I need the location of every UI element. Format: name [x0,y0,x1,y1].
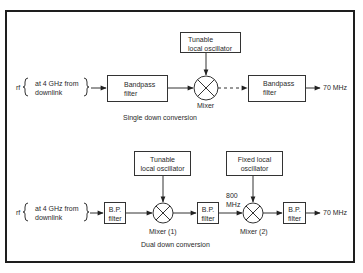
tunable-local-oscillator-box: Tunable local oscillator [180,32,241,53]
left-brace-top [23,78,28,96]
caption-dual-down-conversion: Dual down conversion [141,241,210,250]
right-brace-top [84,78,89,96]
left-brace-bottom [23,203,28,221]
output-label-bottom: 70 MHz [323,209,347,218]
bp-filter-box-3: B.P. filter [283,202,306,224]
right-brace-bottom [84,203,89,221]
bandpass-filter-box-2: Bandpass filter [248,75,306,102]
caption-single-down-conversion: Single down conversion [123,114,197,123]
mixer-label: Mixer [197,102,214,111]
fixed-local-oscillator-box: Fixed local oscillator [226,151,283,176]
bp-filter-box-2: B.P. filter [197,202,219,224]
bandpass-filter-box-1: Bandpass filter [107,75,168,102]
bp-filter-box-1: B.P. filter [104,202,126,224]
input-label-bottom: at 4 GHz from downlink [35,205,79,222]
intermediate-frequency-label: 800 MHz [226,192,240,209]
output-label-top: 70 MHz [323,84,347,93]
input-label-top: at 4 GHz from downlink [35,80,79,97]
mixer-1-label: Mixer (1) [149,228,177,237]
tunable-local-oscillator-box-dual: Tunable local oscillator [134,151,191,176]
rf-label-top: rf [16,84,20,93]
mixer-2-label: Mixer (2) [240,228,268,237]
rf-label-bottom: rf [16,209,20,218]
